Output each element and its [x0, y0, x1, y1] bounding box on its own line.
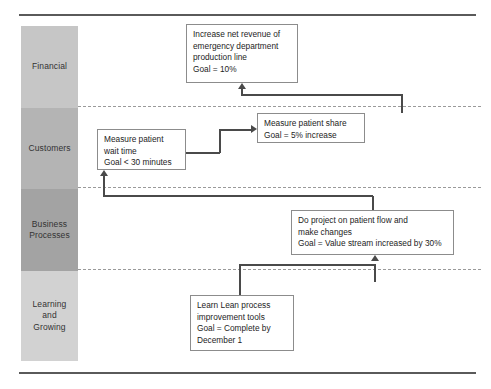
- strategy-map-diagram: Financial Customers BusinessProcesses Le…: [0, 0, 491, 389]
- connector-wait-to-share-vertical: [219, 129, 221, 153]
- connector-flow-to-wait-horizontal: [103, 195, 373, 197]
- perspective-band-financial: Financial: [21, 26, 78, 108]
- connector-share-to-revenue-vertical: [401, 94, 403, 113]
- connector-learn-to-flow-riser: [239, 264, 241, 296]
- connector-share-to-revenue-horizontal: [241, 94, 402, 96]
- objective-box-patient-flow-project[interactable]: Do project on patient flow and make chan…: [291, 210, 454, 255]
- connector-flow-to-wait-riser: [103, 176, 105, 196]
- objective-box-learn-lean-tools[interactable]: Learn Lean process improvement tools Goa…: [190, 295, 294, 351]
- perspective-band-customers: Customers: [21, 108, 78, 189]
- divider-financial-customers: [78, 106, 481, 107]
- perspective-label-learning-and-growing: LearningandGrowing: [33, 299, 67, 334]
- objective-box-measure-patient-share[interactable]: Measure patient share Goal = 5% increase: [257, 113, 365, 143]
- connector-learn-to-flow-horizontal: [239, 264, 376, 266]
- objective-box-measure-patient-wait-time[interactable]: Measure patient wait time Goal < 30 minu…: [97, 129, 186, 170]
- arrowhead-into-increase-net-revenue: [238, 83, 246, 89]
- perspective-band-business-processes: BusinessProcesses: [21, 189, 78, 271]
- connector-wait-to-share-lower: [186, 152, 220, 154]
- perspective-label-financial: Financial: [32, 61, 67, 73]
- perspective-label-business-processes: BusinessProcesses: [29, 219, 70, 242]
- connector-flow-to-wait-drop: [372, 196, 374, 211]
- perspective-band-learning-and-growing: LearningandGrowing: [21, 271, 78, 361]
- objective-box-increase-net-revenue[interactable]: Increase net revenue of emergency depart…: [186, 24, 298, 83]
- bottom-rule: [19, 372, 476, 374]
- arrowhead-into-measure-patient-wait-time: [100, 170, 108, 176]
- connector-wait-to-share-upper: [219, 129, 252, 131]
- divider-customers-processes: [78, 187, 481, 188]
- divider-processes-learning: [78, 269, 481, 270]
- top-rule: [19, 14, 476, 16]
- perspective-label-customers: Customers: [29, 143, 71, 155]
- connector-share-to-revenue-riser: [241, 89, 243, 95]
- connector-learn-to-flow-vertical: [374, 264, 376, 282]
- arrowhead-into-patient-flow-project: [371, 255, 379, 261]
